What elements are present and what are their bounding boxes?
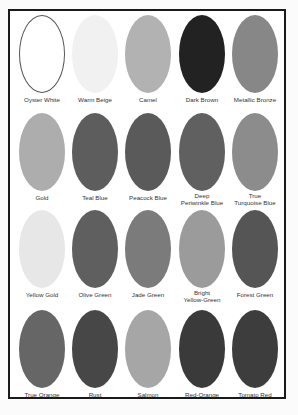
color-oval	[125, 113, 171, 191]
color-oval	[232, 15, 278, 93]
color-swatch-olive-green: Olive Green	[68, 210, 122, 308]
swatch-label-line: Tomato Red	[222, 391, 288, 398]
color-oval	[72, 15, 118, 93]
color-swatch-peacock-blue: Peacock Blue	[121, 113, 175, 211]
color-swatch-rust: Rust	[68, 310, 122, 408]
color-oval	[125, 15, 171, 93]
color-swatch-tomato-red: Tomato Red	[228, 310, 282, 408]
color-swatch-jade-green: Jade Green	[121, 210, 175, 308]
color-swatch-metallic-bronze: Metallic Bronze	[228, 15, 282, 113]
color-oval	[179, 210, 225, 288]
color-oval	[72, 113, 118, 191]
color-oval	[19, 310, 65, 388]
color-swatch-true-turquoise-blue: TrueTurquoise Blue	[228, 113, 282, 211]
color-oval	[19, 113, 65, 191]
color-swatch-forest-green: Forest Green	[228, 210, 282, 308]
color-chart-frame: Oyster WhiteWarm BeigeCamelDark BrownMet…	[8, 9, 286, 399]
color-oval	[232, 310, 278, 388]
swatch-label: TrueTurquoise Blue	[222, 192, 288, 206]
swatch-label: Metallic Bronze	[222, 96, 288, 103]
color-swatch-warm-beige: Warm Beige	[68, 15, 122, 113]
color-swatch-teal-blue: Teal Blue	[68, 113, 122, 211]
swatch-label: Tomato Red	[222, 391, 288, 398]
color-oval	[19, 210, 65, 288]
color-swatch-true-orange: True Orange	[15, 310, 69, 408]
color-swatch-camel: Camel	[121, 15, 175, 113]
color-swatch-red-orange: Red-Orange	[175, 310, 229, 408]
swatch-label-line: Turquoise Blue	[222, 199, 288, 206]
color-swatch-deep-periwinkle-blue: DeepPeriwinkle Blue	[175, 113, 229, 211]
color-oval	[19, 15, 65, 93]
color-oval	[72, 210, 118, 288]
color-oval	[125, 210, 171, 288]
color-oval	[179, 113, 225, 191]
color-swatch-yellow-gold: Yellow Gold	[15, 210, 69, 308]
color-oval	[72, 310, 118, 388]
swatch-label-line: True	[222, 192, 288, 199]
color-swatch-oyster-white: Oyster White	[15, 15, 69, 113]
swatch-label-line: Metallic Bronze	[222, 96, 288, 103]
color-oval	[232, 113, 278, 191]
swatch-label: Forest Green	[222, 291, 288, 298]
color-oval	[179, 15, 225, 93]
color-oval	[125, 310, 171, 388]
color-swatch-bright-yellow-green: BrightYellow-Green	[175, 210, 229, 308]
color-swatch-salmon: Salmon	[121, 310, 175, 408]
color-swatch-gold: Gold	[15, 113, 69, 211]
swatch-label-line: Forest Green	[222, 291, 288, 298]
color-oval	[179, 310, 225, 388]
color-swatch-dark-brown: Dark Brown	[175, 15, 229, 113]
color-oval	[232, 210, 278, 288]
